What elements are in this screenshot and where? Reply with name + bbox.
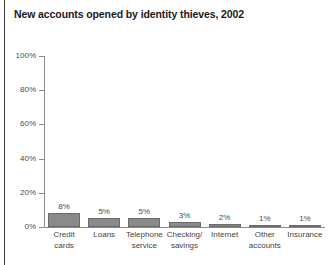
bar[interactable] [289, 225, 321, 227]
bar-value-label: 5% [124, 207, 164, 216]
bar-value-label: 2% [205, 213, 245, 222]
bar-value-label: 1% [285, 214, 325, 223]
x-axis-category-label: Internet [205, 230, 245, 241]
y-axis-tick [39, 124, 44, 125]
bar-group[interactable]: 2% [205, 56, 245, 227]
y-axis-label: 0% [2, 223, 36, 231]
x-axis-category-label: Other accounts [245, 230, 285, 251]
bar-group[interactable]: 1% [285, 56, 325, 227]
chart-title: New accounts opened by identity thieves,… [14, 8, 244, 20]
y-axis-label: 80% [2, 86, 36, 94]
y-axis-label: 20% [2, 189, 36, 197]
y-axis-tick [39, 193, 44, 194]
y-axis-label: 60% [2, 120, 36, 128]
bar[interactable] [88, 218, 120, 227]
bar-group[interactable]: 8% [44, 56, 84, 227]
y-axis-label: 100% [2, 52, 36, 60]
bar-value-label: 8% [44, 202, 84, 211]
bar-group[interactable]: 1% [245, 56, 285, 227]
x-axis-baseline [44, 227, 325, 228]
bar-group[interactable]: 3% [165, 56, 205, 227]
x-axis-category-label: Insurance [285, 230, 325, 241]
bar[interactable] [128, 218, 160, 227]
bar[interactable] [169, 222, 201, 227]
bar-value-label: 3% [165, 211, 205, 220]
y-axis-tick [39, 56, 44, 57]
plot-area: 8%Credit cards5%Loans5%Telephone service… [44, 56, 325, 227]
bar-value-label: 1% [245, 214, 285, 223]
bar[interactable] [209, 224, 241, 227]
bar[interactable] [249, 225, 281, 227]
y-axis-tick [39, 90, 44, 91]
bar-chart: New accounts opened by identity thieves,… [0, 0, 329, 265]
x-axis-category-label: Telephone service [124, 230, 164, 251]
x-axis-category-label: Loans [84, 230, 124, 241]
bar-group[interactable]: 5% [124, 56, 164, 227]
bar-value-label: 5% [84, 207, 124, 216]
x-axis-category-label: Checking/ savings [164, 230, 204, 251]
y-axis-label: 40% [2, 155, 36, 163]
y-axis-tick [39, 227, 44, 228]
bar-group[interactable]: 5% [84, 56, 124, 227]
y-axis-tick [39, 159, 44, 160]
bar[interactable] [48, 213, 80, 227]
x-axis-category-label: Credit cards [44, 230, 84, 251]
